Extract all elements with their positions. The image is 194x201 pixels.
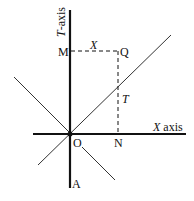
light-line-negative-lower — [82, 147, 115, 180]
origin-point — [68, 132, 73, 137]
t-axis-label: T-axis — [54, 7, 68, 37]
point-label-A: A — [72, 177, 81, 191]
segment-label-T: T — [122, 92, 130, 106]
point-label-N: N — [114, 136, 123, 150]
segment-label-X: X — [89, 38, 98, 52]
light-line-negative-upper — [14, 77, 71, 134]
spacetime-diagram: T-axis X axis M Q O N A X T — [0, 0, 194, 201]
x-axis-label: X axis — [152, 120, 183, 134]
point-label-Q: Q — [120, 45, 129, 59]
point-label-O: O — [73, 136, 82, 150]
point-label-M: M — [58, 45, 69, 59]
